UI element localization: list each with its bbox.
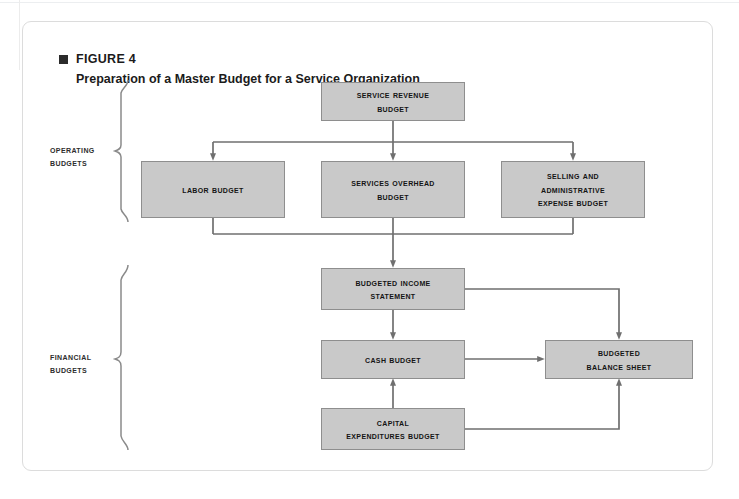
node-capital-expenditures-budget[interactable]: Capital Expenditures Budget [321, 408, 465, 450]
node-selling-administrative-expense-budget[interactable]: Selling and Administrative Expense Budge… [501, 161, 645, 218]
figure-heading: FIGURE 4 Preparation of a Master Budget … [59, 52, 420, 86]
node-line-2: Balance Sheet [587, 360, 652, 374]
group-label-operating-line1: Operating [50, 143, 122, 156]
node-line-3: Expense Budget [538, 196, 608, 210]
node-line-2: Statement [355, 289, 430, 303]
group-label-operating-budgets: Operating Budgets [50, 143, 122, 169]
node-line-1: Labor Budget [182, 183, 243, 197]
node-budgeted-income-statement[interactable]: Budgeted Income Statement [321, 268, 465, 310]
figure-label: FIGURE 4 [76, 52, 136, 66]
group-label-financial-line2: Budgets [50, 363, 122, 376]
node-line-1: Cash Budget [365, 353, 421, 367]
group-label-financial-line1: Financial [50, 350, 122, 363]
node-line-2: Budget [357, 102, 429, 116]
node-line-2: Administrative [538, 183, 608, 197]
square-bullet-icon [59, 55, 68, 64]
group-label-financial-budgets: Financial Budgets [50, 350, 122, 376]
node-line-2: Expenditures Budget [346, 429, 439, 443]
node-labor-budget[interactable]: Labor Budget [141, 161, 285, 218]
page-rule-top [0, 2, 739, 3]
node-line-1: Services Overhead [351, 176, 435, 190]
node-line-1: Selling and [538, 169, 608, 183]
node-line-1: Budgeted Income [355, 276, 430, 290]
node-budgeted-balance-sheet[interactable]: Budgeted Balance Sheet [545, 340, 693, 379]
group-label-operating-line2: Budgets [50, 156, 122, 169]
page-rule-left [19, 0, 20, 70]
node-services-overhead-budget[interactable]: Services Overhead Budget [321, 161, 465, 218]
node-cash-budget[interactable]: Cash Budget [321, 340, 465, 379]
figure-screenshot: FIGURE 4 Preparation of a Master Budget … [0, 0, 739, 499]
node-line-1: Budgeted [587, 346, 652, 360]
node-line-2: Budget [351, 190, 435, 204]
node-service-revenue-budget[interactable]: Service Revenue Budget [321, 82, 465, 121]
node-line-1: Service Revenue [357, 88, 429, 102]
node-line-1: Capital [346, 416, 439, 430]
